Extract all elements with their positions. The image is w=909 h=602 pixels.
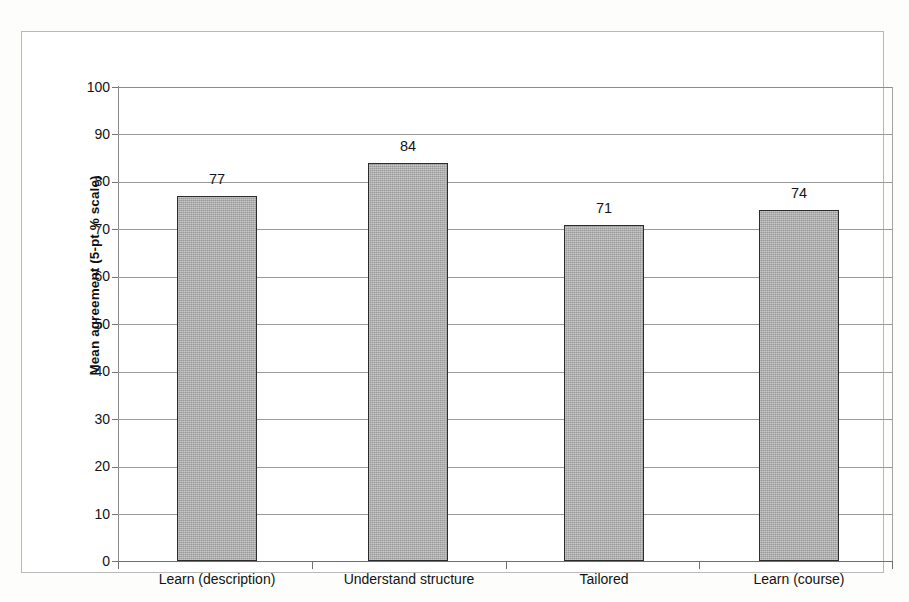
x-tick-mark [506, 562, 507, 569]
scanned-page-background: Mean agreement (5-pt % scale) 100 90 80 … [0, 0, 909, 602]
y-tick-label: 70 [66, 222, 110, 236]
y-tick-label: 0 [66, 554, 110, 568]
y-tick-label: 30 [66, 412, 110, 426]
bar-tailored[interactable] [564, 225, 644, 562]
figure-frame: Mean agreement (5-pt % scale) 100 90 80 … [21, 31, 884, 573]
y-tick-label: 90 [66, 127, 110, 141]
gridline-100 [118, 87, 892, 88]
bar-learn-description[interactable] [177, 196, 257, 561]
x-tick-mark [699, 562, 700, 569]
bar-value-label: 77 [177, 172, 257, 187]
bar-value-label: 84 [368, 139, 448, 154]
bar-value-label: 74 [759, 186, 839, 201]
bar-understand-structure[interactable] [368, 163, 448, 561]
x-tick-mark [892, 562, 893, 569]
plot-right-border [892, 87, 893, 562]
x-tick-label-learn-description: Learn (description) [117, 572, 317, 586]
x-tick-label-learn-course: Learn (course) [699, 572, 899, 586]
y-tick-label: 40 [66, 364, 110, 378]
plot-area [118, 87, 892, 561]
x-tick-mark [312, 562, 313, 569]
x-tick-label-tailored: Tailored [504, 572, 704, 586]
y-tick-label: 80 [66, 174, 110, 188]
y-tick-label: 20 [66, 459, 110, 473]
x-tick-label-understand-structure: Understand structure [309, 572, 509, 586]
bar-learn-course[interactable] [759, 210, 839, 561]
y-tick-label: 100 [66, 80, 110, 94]
y-tick-label: 10 [66, 507, 110, 521]
gridline-90 [118, 134, 892, 135]
y-tick-label: 50 [66, 317, 110, 331]
x-tick-mark [118, 562, 119, 569]
y-tick-label: 60 [66, 269, 110, 283]
y-axis-tick-labels: 100 90 80 70 60 50 40 30 20 10 0 [52, 32, 110, 602]
bar-value-label: 71 [564, 201, 644, 216]
